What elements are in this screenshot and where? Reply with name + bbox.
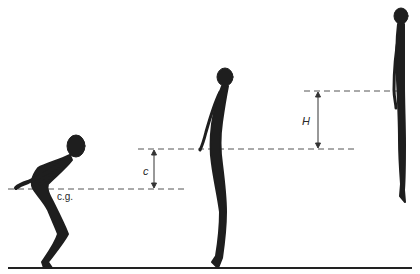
- H-dimension-arrow: [316, 92, 321, 148]
- airborne-figure: [394, 8, 408, 202]
- standing-figure: [200, 68, 233, 268]
- c-dimension-arrow: [152, 150, 157, 188]
- jump-diagram: c H c.g.: [0, 0, 420, 274]
- H-label: H: [302, 115, 310, 127]
- cg-label: c.g.: [57, 191, 73, 202]
- crouched-figure: [16, 135, 85, 268]
- c-label: c: [143, 165, 149, 177]
